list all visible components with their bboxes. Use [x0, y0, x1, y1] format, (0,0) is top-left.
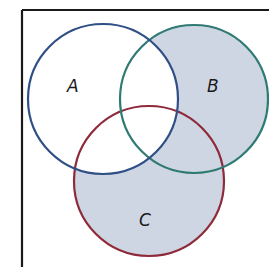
label-set-c: C — [139, 210, 151, 230]
venn-diagram: A B C — [0, 0, 269, 267]
label-set-b: B — [207, 76, 219, 96]
shaded-region-b-union-c-minus-a — [74, 25, 268, 256]
label-set-a: A — [66, 76, 79, 96]
